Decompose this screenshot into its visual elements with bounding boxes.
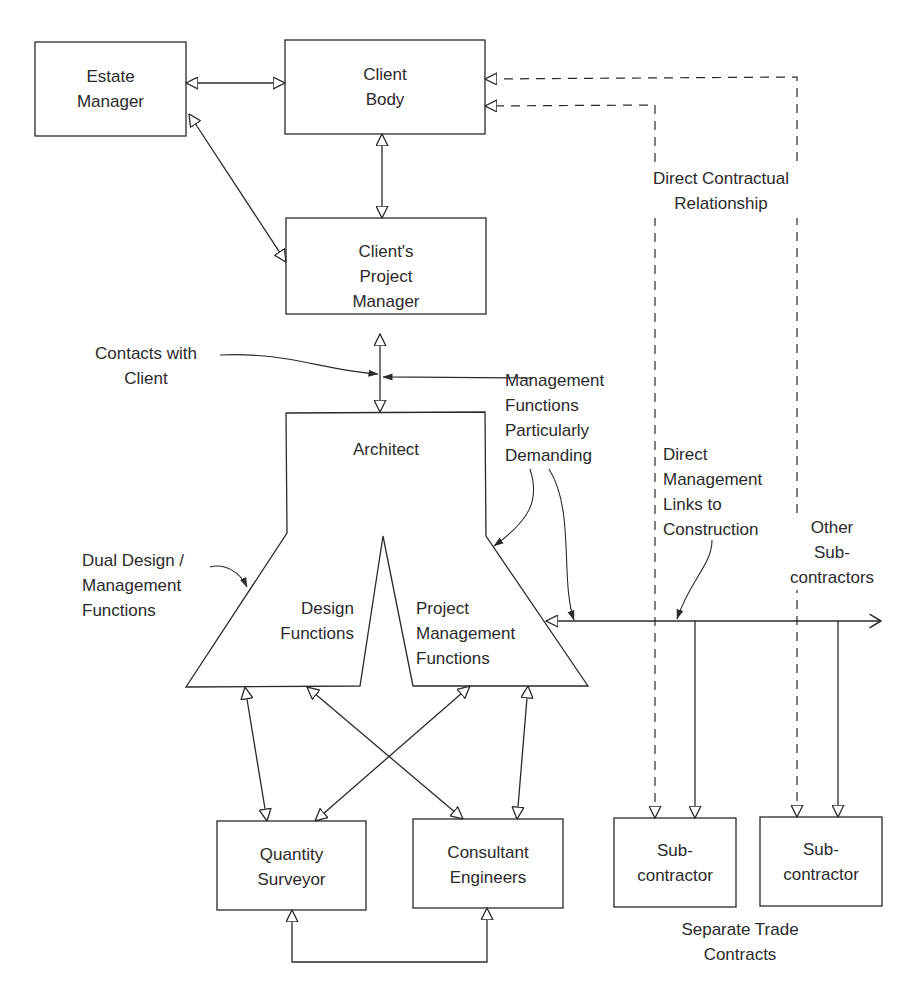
edge-qs-ce <box>292 908 487 962</box>
direct-contractual-label: Direct Contractual Relationship <box>630 166 812 216</box>
management-demanding-label: Management Functions Particularly Demand… <box>505 368 604 468</box>
direct-management-links-label: Direct Management Links to Construction <box>663 442 762 542</box>
pointer-demanding-2 <box>549 469 574 620</box>
client-body-label: Client Body <box>285 62 485 112</box>
pointer-demanding-1 <box>494 469 534 546</box>
edge-design-qs <box>245 687 267 821</box>
dual-design-label: Dual Design / Management Functions <box>82 548 184 623</box>
architect-label: Architect <box>286 437 486 462</box>
pointer-dual-design <box>210 566 247 587</box>
pointer-direct-management <box>677 540 712 619</box>
design-functions-label: Design Functions <box>240 596 354 646</box>
consultant-engineers-label: Consultant Engineers <box>413 840 563 890</box>
subcontractor-1-label: Sub- contractor <box>614 838 736 888</box>
edge-pm-qs <box>315 686 470 821</box>
pointer-contacts-left <box>220 355 378 374</box>
clients-project-manager-label: Client's Project Manager <box>286 239 486 314</box>
subcontractor-2-label: Sub- contractor <box>760 837 882 887</box>
edge-estate-pm <box>189 114 286 262</box>
quantity-surveyor-label: Quantity Surveyor <box>217 842 366 892</box>
edge-pm-ce <box>517 686 528 819</box>
estate-manager-label: Estate Manager <box>35 64 186 114</box>
separate-trade-contracts-label: Separate Trade Contracts <box>660 917 820 967</box>
contacts-with-client-label: Contacts with Client <box>78 341 214 391</box>
edge-design-ce <box>307 687 463 819</box>
other-subcontractors-label: Other Sub- contractors <box>780 515 884 590</box>
project-management-functions-label: Project Management Functions <box>416 596 515 671</box>
